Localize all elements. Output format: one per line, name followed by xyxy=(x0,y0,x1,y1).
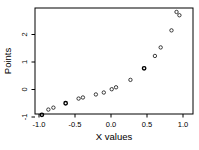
data-point xyxy=(94,93,97,96)
y-tick-label: -1 xyxy=(20,114,29,121)
x-axis-title: X values xyxy=(96,131,133,142)
y-tick-label: 1 xyxy=(20,60,29,64)
scatter-plot-figure: -1.0-0.50.00.51.0 -1012 X values Points xyxy=(0,0,199,150)
data-point xyxy=(110,88,113,91)
y-axis-ticks: -1012 xyxy=(20,32,35,120)
x-axis-ticks: -1.0-0.50.00.51.0 xyxy=(33,114,189,129)
data-point xyxy=(129,78,132,81)
data-points xyxy=(40,10,181,116)
data-point xyxy=(102,91,105,94)
data-point xyxy=(170,29,173,32)
y-axis-title: Points xyxy=(2,48,13,75)
plot-canvas: -1.0-0.50.00.51.0 -1012 X values Points xyxy=(0,0,199,150)
data-point xyxy=(81,96,84,99)
data-point xyxy=(114,86,117,89)
x-tick-label: -0.5 xyxy=(69,120,82,129)
data-point xyxy=(159,46,162,49)
y-tick-label: 0 xyxy=(20,87,29,91)
x-tick-label: 0.5 xyxy=(142,120,152,129)
data-point xyxy=(178,14,181,17)
data-point xyxy=(77,97,80,100)
plot-border xyxy=(35,8,193,114)
x-tick-label: 0.0 xyxy=(106,120,116,129)
data-point xyxy=(40,113,43,116)
data-point xyxy=(64,102,67,105)
data-point xyxy=(52,106,55,109)
data-point xyxy=(175,10,178,13)
y-tick-label: 2 xyxy=(20,32,29,36)
x-tick-label: 1.0 xyxy=(178,120,188,129)
data-point xyxy=(153,54,156,57)
x-tick-label: -1.0 xyxy=(33,120,46,129)
data-point xyxy=(47,108,50,111)
data-point xyxy=(142,67,145,70)
